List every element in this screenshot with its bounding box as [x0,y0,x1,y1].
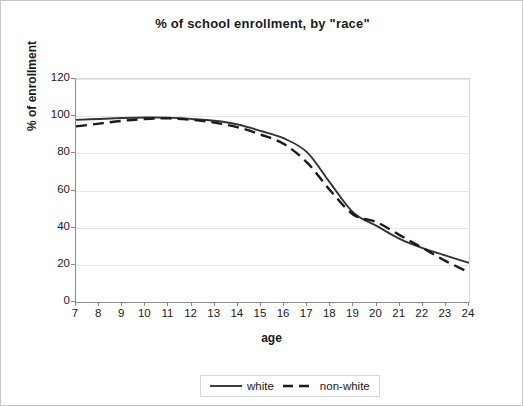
x-axis-tick-label: 19 [341,307,363,319]
series-lines [76,79,469,302]
legend-label: white [247,380,274,392]
x-axis-title: age [75,331,468,345]
y-axis-tick-label: 20 [26,257,70,269]
x-axis-tick-label: 22 [411,307,433,319]
legend-swatch-white-icon [210,381,242,391]
y-axis-tick-label: 120 [26,71,70,83]
x-axis-tick-label: 21 [388,307,410,319]
x-axis-tick-label: 11 [156,307,178,319]
x-axis-tick-label: 15 [249,307,271,319]
chart-title: % of school enrollment, by "race" [1,16,523,31]
plot-area [75,78,470,303]
x-axis-tick-label: 17 [295,307,317,319]
legend-entry-white: white [210,380,274,392]
legend-swatch-non-white-icon [283,381,315,391]
y-axis-title: % of enrollment [25,6,39,166]
x-axis-tick-label: 8 [87,307,109,319]
x-axis-tick-label: 12 [180,307,202,319]
y-axis-tick-label: 80 [26,145,70,157]
x-axis-tick-label: 20 [365,307,387,319]
series-line-non-white [76,118,469,272]
x-axis-tick-label: 7 [64,307,86,319]
y-axis-tick-label: 60 [26,183,70,195]
x-axis-tick-label: 23 [434,307,456,319]
x-axis-tick-label: 18 [318,307,340,319]
y-axis-tick-label: 0 [26,294,70,306]
x-axis-tick-label: 10 [133,307,155,319]
x-axis-tick-label: 24 [457,307,479,319]
x-axis-tick-label: 13 [203,307,225,319]
legend-label: non-white [320,380,370,392]
legend-entry-non-white: non-white [283,380,370,392]
x-axis-tick-label: 9 [110,307,132,319]
y-axis-tick-label: 100 [26,108,70,120]
x-axis-tick-label: 14 [226,307,248,319]
chart-legend: whitenon-white [200,375,380,397]
chart-container: % of school enrollment, by "race" % of e… [0,0,523,406]
x-axis-tick-label: 16 [272,307,294,319]
y-axis-tick-label: 40 [26,220,70,232]
